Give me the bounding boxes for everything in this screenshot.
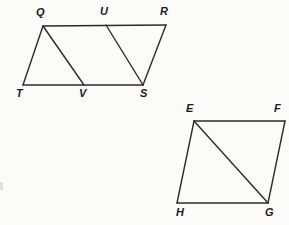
diagonal-E-G — [194, 121, 268, 203]
edge-Q-T — [23, 26, 43, 85]
vertex-label-r: R — [160, 6, 168, 17]
figure-quadrilateral-efgh-lines — [177, 121, 285, 203]
vertex-label-g: G — [265, 207, 274, 218]
edge-Q-R — [43, 25, 166, 26]
diagonal-U-S — [106, 25, 143, 85]
edge-R-S — [143, 25, 166, 85]
figure-parallelogram-qrst-lines — [23, 25, 166, 85]
vertex-label-h: H — [176, 207, 184, 218]
vertex-label-t: T — [16, 88, 23, 99]
diagram-canvas — [0, 0, 289, 225]
vertex-label-q: Q — [36, 7, 45, 18]
edge-H-E — [177, 121, 194, 203]
diagonal-Q-V — [43, 26, 84, 85]
vertex-label-v: V — [79, 88, 86, 99]
vertex-label-e: E — [186, 103, 193, 114]
vertex-label-s: S — [140, 88, 147, 99]
scan-edge-mark — [0, 182, 3, 190]
geometry-diagram-page: QURTVSEFHG — [0, 0, 289, 225]
vertex-label-u: U — [100, 6, 108, 17]
vertex-label-f: F — [274, 103, 281, 114]
edge-F-G — [268, 121, 285, 203]
